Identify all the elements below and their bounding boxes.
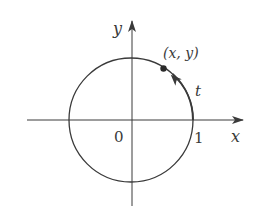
arc-t: [173, 74, 193, 120]
point-xy: [160, 65, 166, 71]
arc-label: t: [195, 82, 202, 100]
unit-circle-diagram: y x 0 1 (x, y) t: [0, 0, 264, 217]
origin-label: 0: [114, 128, 124, 146]
unit-tick-label: 1: [194, 129, 204, 147]
y-axis-label: y: [112, 19, 123, 38]
x-axis-label: x: [231, 127, 240, 146]
point-label: (x, y): [163, 45, 199, 61]
